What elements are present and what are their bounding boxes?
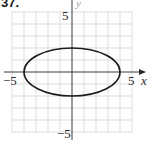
x-axis-label: x: [141, 74, 147, 87]
y-tick-5: 5: [62, 9, 69, 22]
y-tick-neg5: −5: [57, 127, 71, 140]
graph-canvas: [0, 0, 148, 142]
problem-number: 37.: [1, 0, 19, 9]
ellipse-graph: 37. y 5 −5 5 x −5: [0, 0, 148, 142]
y-axis-label: y: [76, 0, 81, 10]
x-tick-5: 5: [128, 74, 135, 87]
x-tick-neg5: −5: [3, 74, 17, 87]
